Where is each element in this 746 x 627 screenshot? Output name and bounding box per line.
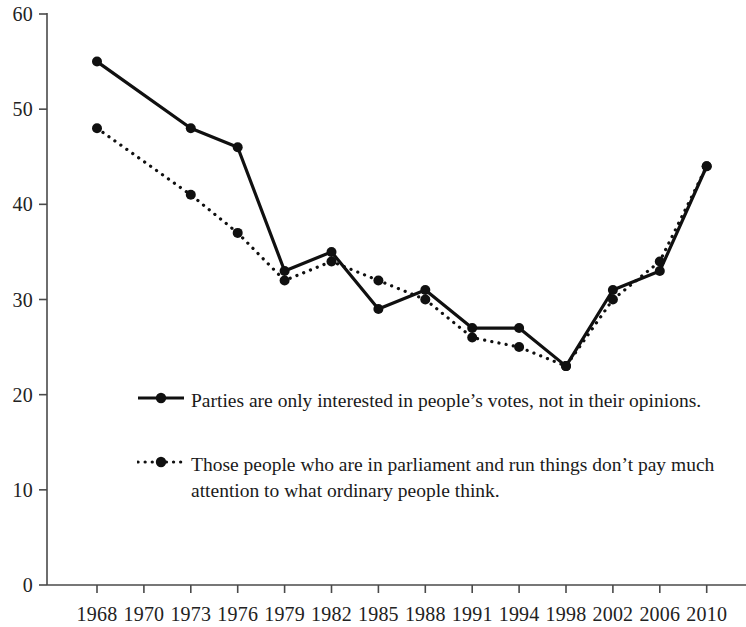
data-point <box>280 275 290 285</box>
y-axis-tick-label: 40 <box>0 194 33 214</box>
data-point <box>467 333 477 343</box>
data-point <box>280 266 290 276</box>
plot-area <box>0 0 746 627</box>
data-point <box>514 323 524 333</box>
data-point <box>561 361 571 371</box>
line-chart: 0102030405060 19681970197319761979198219… <box>0 0 746 627</box>
y-axis-tick-label: 20 <box>0 385 33 405</box>
data-point <box>702 161 712 171</box>
y-axis-tick-label: 10 <box>0 480 33 500</box>
data-point <box>655 256 665 266</box>
data-point <box>608 295 618 305</box>
legend-marker-solid-line <box>137 388 185 408</box>
y-axis-tick-label: 0 <box>0 575 33 595</box>
data-point <box>514 342 524 352</box>
legend-label-parties-votes: Parties are only interested in people’s … <box>185 388 701 414</box>
legend-marker-dotted-line <box>137 452 185 472</box>
data-point <box>327 256 337 266</box>
legend-item-parties-votes: Parties are only interested in people’s … <box>137 388 737 414</box>
data-point <box>92 123 102 133</box>
x-axis-tick-label: 2010 <box>677 604 737 624</box>
data-point <box>420 285 430 295</box>
data-point <box>186 123 196 133</box>
data-point <box>92 57 102 67</box>
data-point <box>373 275 383 285</box>
legend-item-parliament-attention: Those people who are in parliament and r… <box>137 452 737 504</box>
series-line-0 <box>97 62 707 367</box>
y-axis-tick-label: 60 <box>0 4 33 24</box>
data-point <box>655 266 665 276</box>
data-point <box>373 304 383 314</box>
data-point <box>233 228 243 238</box>
data-point <box>467 323 477 333</box>
data-point <box>608 285 618 295</box>
y-axis-tick-label: 50 <box>0 99 33 119</box>
data-point <box>327 247 337 257</box>
data-point <box>233 142 243 152</box>
data-series <box>92 57 712 372</box>
y-axis-tick-label: 30 <box>0 290 33 310</box>
legend-label-parliament-attention: Those people who are in parliament and r… <box>185 452 737 504</box>
data-point <box>420 295 430 305</box>
series-line-1 <box>97 128 707 366</box>
data-point <box>186 190 196 200</box>
